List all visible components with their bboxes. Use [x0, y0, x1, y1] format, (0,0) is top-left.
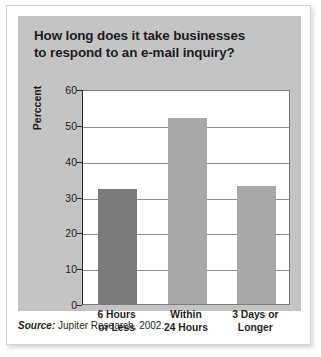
chart-panel: How long does it take businesses to resp… [18, 16, 301, 311]
x-label-line: Longer [221, 321, 290, 334]
plot-area [82, 90, 290, 305]
chart-title-line-1: How long does it take businesses [34, 27, 292, 44]
y-tick-label-50: 50 [53, 121, 77, 131]
source-note: Source: Jupiter Research, 2002. [18, 320, 164, 331]
y-tick-mark-50 [77, 126, 82, 127]
source-text: Jupiter Research, 2002. [55, 320, 164, 331]
y-tick-label-30: 30 [53, 193, 77, 203]
y-tick-label-60: 60 [53, 85, 77, 95]
y-tick-label-0: 0 [53, 300, 77, 310]
y-tick-mark-0 [77, 305, 82, 306]
bar-2 [237, 186, 276, 304]
y-tick-mark-40 [77, 162, 82, 163]
y-axis-line [82, 90, 83, 305]
y-tick-label-40: 40 [53, 157, 77, 167]
y-tick-mark-20 [77, 233, 82, 234]
chart-title-line-2: to respond to an e-mail inquiry? [34, 44, 292, 61]
figure-card: How long does it take businesses to resp… [6, 5, 311, 345]
y-tick-label-20: 20 [53, 228, 77, 238]
bar-1 [168, 118, 207, 304]
y-tick-mark-10 [77, 269, 82, 270]
x-label-line: 3 Days or [221, 308, 290, 321]
y-axis-tick-labels: 0102030405060 [47, 90, 77, 305]
y-axis-title: Perccent [31, 68, 43, 148]
y-tick-mark-60 [77, 90, 82, 91]
bar-0 [98, 189, 137, 304]
y-tick-label-10: 10 [53, 264, 77, 274]
source-label: Source: [18, 320, 55, 331]
y-tick-mark-30 [77, 198, 82, 199]
chart-title: How long does it take businesses to resp… [34, 27, 292, 61]
x-label-2: 3 Days orLonger [221, 308, 290, 342]
